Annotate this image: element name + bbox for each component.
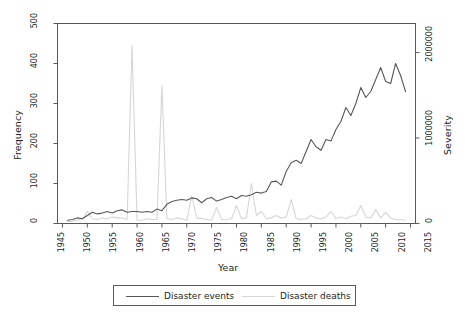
legend-swatch-disaster-deaths <box>242 296 275 297</box>
series-line-disaster-events <box>67 64 405 221</box>
plot-area <box>0 0 465 318</box>
legend-item-disaster-deaths: Disaster deaths <box>242 291 351 301</box>
x-axis-ticks <box>62 224 410 228</box>
plot-frame <box>58 24 416 224</box>
legend-label-disaster-events: Disaster events <box>164 291 234 301</box>
legend-item-disaster-events: Disaster events <box>126 291 234 301</box>
chart-legend: Disaster events Disaster deaths <box>113 285 356 306</box>
y2-axis-ticks <box>416 53 420 224</box>
y-axis-ticks <box>54 24 58 224</box>
legend-swatch-disaster-events <box>126 296 159 297</box>
legend-label-disaster-deaths: Disaster deaths <box>280 291 351 301</box>
chart-figure: Frequency Severity Year 500 400 300 200 … <box>0 0 465 318</box>
series-line-disaster-deaths <box>67 46 405 222</box>
